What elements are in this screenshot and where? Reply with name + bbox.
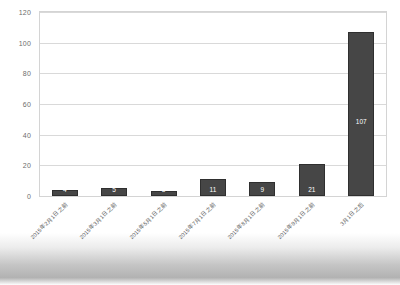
bar-value-label: 9	[261, 187, 265, 194]
bar[interactable]: 107	[348, 32, 374, 196]
bar[interactable]: 11	[200, 179, 226, 196]
y-axis-tick-label: 40	[23, 131, 31, 138]
bar-value-label: 3	[162, 187, 166, 194]
y-axis: 020406080100120	[0, 11, 36, 197]
bar-slot: 5	[89, 12, 138, 196]
x-axis-tick-label: 2015年7月1日之前	[177, 200, 218, 241]
bar-slot: 4	[40, 12, 89, 196]
bar-value-label: 107	[356, 119, 367, 126]
plot-frame: 45311921107	[39, 11, 387, 197]
bar-slot: 21	[287, 12, 336, 196]
x-axis-tick-label: 2015年2月1日之前	[29, 200, 70, 241]
bar-chart: 020406080100120 45311921107 2015年2月1日之前2…	[0, 0, 400, 285]
y-axis-tick-label: 0	[27, 193, 31, 200]
bar-slot: 9	[238, 12, 287, 196]
bar-value-label: 11	[210, 187, 217, 194]
bar[interactable]: 9	[249, 182, 275, 196]
y-axis-tick-label: 120	[19, 9, 31, 16]
y-axis-tick-label: 80	[23, 70, 31, 77]
x-axis-tick-label: 2015年9月1日之前	[276, 200, 317, 241]
bar-slot: 3	[139, 12, 188, 196]
y-axis-tick-label: 20	[23, 162, 31, 169]
plot-area: 45311921107	[40, 12, 386, 196]
bar-value-label: 5	[112, 187, 116, 194]
x-axis-tick-label: 2015年3月1日之前	[78, 200, 119, 241]
bar-value-label: 4	[63, 187, 67, 194]
x-axis: 2015年2月1日之前2015年3月1日之前2015年5月1日之前2015年7月…	[39, 198, 387, 258]
bar[interactable]: 21	[299, 164, 325, 196]
bar[interactable]: 3	[151, 191, 177, 196]
bar[interactable]: 5	[101, 188, 127, 196]
x-axis-tick-label: 2015年5月1日之前	[127, 200, 168, 241]
bar[interactable]: 4	[52, 190, 78, 196]
y-axis-tick-label: 100	[19, 39, 31, 46]
y-axis-tick-label: 60	[23, 101, 31, 108]
bar-slot: 107	[337, 12, 386, 196]
x-axis-tick-label: 3月1日之后	[338, 200, 365, 227]
x-axis-tick-label: 2015年8月1日之前	[226, 200, 267, 241]
bar-slot: 11	[188, 12, 237, 196]
bar-value-label: 21	[308, 187, 315, 194]
